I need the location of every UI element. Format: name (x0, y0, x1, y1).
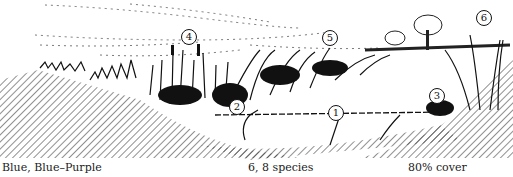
caption-color: Blue, Blue–Purple (2, 161, 102, 174)
caption-species: 6, 8 species (248, 161, 314, 174)
zone-marker-1: 1 (328, 105, 344, 121)
pond-illustration: 1 2 3 4 5 6 Blue, Blue–Purple 6, 8 speci… (0, 0, 513, 177)
zone-marker-3: 3 (429, 88, 445, 104)
dense-foliage (158, 44, 454, 116)
zone-marker-2: 2 (229, 99, 245, 115)
zone-marker-4: 4 (181, 29, 197, 45)
zone-marker-5: 5 (322, 30, 338, 46)
caption-cover: 80% cover (408, 161, 467, 174)
zone-marker-6: 6 (476, 10, 492, 26)
